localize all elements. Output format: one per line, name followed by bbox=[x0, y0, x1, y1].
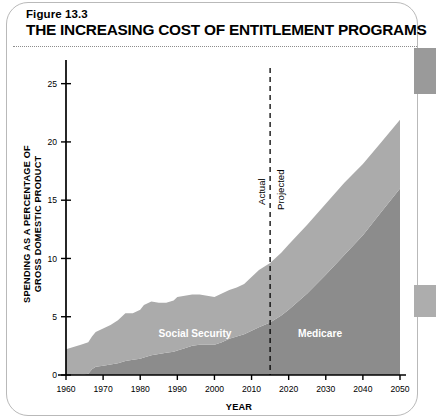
x-tick-label: 1970 bbox=[94, 384, 113, 394]
x-tick-label: 1980 bbox=[131, 384, 150, 394]
x-tick-label: 2040 bbox=[353, 384, 372, 394]
y-axis-title: SPENDING AS A PERCENTAGE OFGROSS DOMESTI… bbox=[22, 145, 43, 303]
label-projected: Projected bbox=[275, 169, 286, 210]
stacked-areas bbox=[66, 120, 400, 375]
label-actual: Actual bbox=[256, 178, 267, 205]
area-chart-svg: ActualProjected 051015202519601970198019… bbox=[0, 0, 436, 420]
x-tick-label: 2030 bbox=[316, 384, 335, 394]
y-tick-label: 15 bbox=[47, 195, 57, 205]
x-tick-label: 1960 bbox=[56, 384, 75, 394]
y-tick-label: 25 bbox=[47, 79, 57, 89]
y-tick-label: 20 bbox=[47, 137, 57, 147]
y-tick-label: 0 bbox=[52, 370, 57, 380]
series-label-social-security: Social Security bbox=[158, 328, 231, 339]
x-tick-label: 2020 bbox=[279, 384, 298, 394]
x-axis-title: YEAR bbox=[226, 402, 252, 412]
x-tick-label: 2050 bbox=[390, 384, 409, 394]
y-tick-label: 5 bbox=[52, 312, 57, 322]
chart-plot-area: ActualProjected 051015202519601970198019… bbox=[0, 0, 436, 420]
x-tick-label: 2010 bbox=[242, 384, 261, 394]
x-tick-label: 2000 bbox=[205, 384, 224, 394]
x-tick-label: 1990 bbox=[168, 384, 187, 394]
series-label-medicare: Medicare bbox=[298, 328, 343, 339]
y-tick-label: 10 bbox=[47, 254, 57, 264]
